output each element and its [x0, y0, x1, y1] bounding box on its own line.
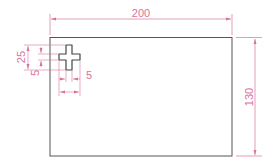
cross-cutout — [59, 45, 80, 70]
cross-height-label: 25 — [15, 51, 27, 63]
cross-arm-width-label: 5 — [86, 69, 92, 81]
width-label: 200 — [132, 7, 150, 19]
technical-drawing: 200 130 25 5 5 — [0, 0, 272, 163]
cross-offset-label: 5 — [29, 70, 41, 76]
height-label: 130 — [243, 88, 255, 106]
